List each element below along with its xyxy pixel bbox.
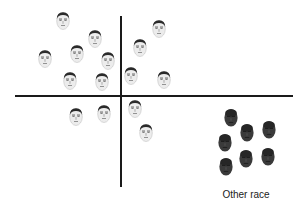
own-race-face-icon [97,104,111,123]
own-race-face-icon [88,29,102,48]
other-race-label: Other race [222,189,269,200]
own-race-face-icon [56,11,70,30]
other-race-face-icon [262,120,276,139]
own-race-face-icon [152,19,166,38]
own-race-face-icon [133,38,147,57]
other-race-face-icon [240,123,254,142]
own-race-face-icon [95,72,109,91]
other-race-face-icon [218,133,232,152]
other-race-face-icon [239,149,253,168]
own-race-face-icon [70,44,84,63]
vertical-axis [120,16,122,187]
other-race-face-icon [224,108,238,127]
own-race-face-icon [38,49,52,68]
horizontal-axis [15,95,293,97]
face-space-diagram: Other race [0,0,300,206]
own-race-face-icon [124,66,138,85]
own-race-face-icon [69,107,83,126]
other-race-face-icon [219,157,233,176]
own-race-face-icon [101,51,115,70]
own-race-face-icon [128,99,142,118]
other-race-face-icon [261,147,275,166]
own-race-face-icon [157,70,171,89]
own-race-face-icon [139,123,153,142]
own-race-face-icon [63,71,77,90]
